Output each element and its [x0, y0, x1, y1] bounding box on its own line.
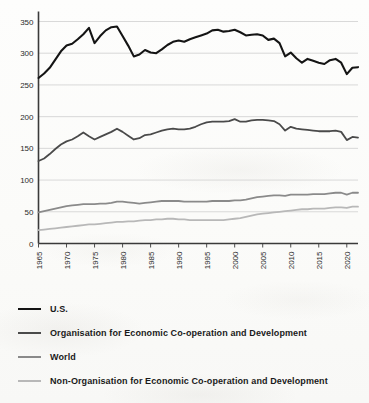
data-series-lines	[39, 27, 359, 231]
x-tick-label: 2010	[287, 251, 296, 269]
x-tick-label: 1980	[119, 251, 128, 269]
legend-item[interactable]: World	[18, 345, 358, 369]
legend-item-label: U.S.	[50, 304, 68, 314]
x-tick-label: 1985	[147, 251, 156, 269]
y-tick-label: 100	[20, 176, 34, 185]
legend-item-label: Non-Organisation for Economic Co-operati…	[50, 376, 328, 386]
legend-item[interactable]: Organisation for Economic Co-operation a…	[18, 321, 358, 345]
legend-line-swatch	[18, 380, 41, 382]
legend-item[interactable]: Non-Organisation for Economic Co-operati…	[18, 369, 358, 393]
y-tick-label: 350	[20, 18, 34, 27]
x-tick-label: 2015	[315, 251, 324, 269]
legend-line-swatch	[18, 332, 41, 334]
y-tick-label: 150	[20, 144, 34, 153]
x-tick-label: 1970	[63, 251, 72, 269]
legend-item[interactable]: U.S.	[18, 297, 358, 321]
y-tick-label: 0	[29, 240, 34, 249]
y-tick-label: 250	[20, 81, 34, 90]
y-tick-labels: 050100150200250300350	[20, 18, 34, 249]
series-line	[39, 119, 359, 161]
y-tick-label: 50	[25, 208, 34, 217]
x-tick-label: 2020	[343, 251, 352, 269]
legend-item-label: Organisation for Economic Co-operation a…	[50, 328, 307, 338]
x-tick-label: 2005	[259, 251, 268, 269]
x-tick-label: 1965	[35, 251, 44, 269]
x-tick-label: 1975	[91, 251, 100, 269]
series-line	[39, 27, 359, 78]
x-axis	[39, 244, 359, 248]
chart-legend: U.S.Organisation for Economic Co-operati…	[18, 297, 358, 393]
series-line	[39, 207, 359, 230]
y-tick-label: 300	[20, 49, 34, 58]
x-tick-label: 1990	[175, 251, 184, 269]
line-chart: 050100150200250300350 196519701975198019…	[0, 0, 369, 403]
legend-line-swatch	[18, 356, 41, 358]
y-tick-label: 200	[20, 113, 34, 122]
gridlines	[39, 22, 359, 212]
legend-line-swatch	[18, 308, 41, 310]
legend-item-label: World	[50, 352, 76, 362]
x-tick-label: 1995	[203, 251, 212, 269]
x-tick-labels: 1965197019751980198519901995200020052010…	[35, 251, 352, 269]
x-tick-label: 2000	[231, 251, 240, 269]
